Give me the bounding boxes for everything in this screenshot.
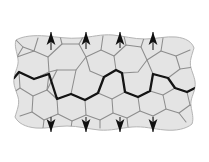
figure-root [0, 0, 209, 162]
specimen-fill [14, 35, 195, 130]
intergranular-fracture-figure [0, 0, 209, 162]
specimen-body [14, 35, 195, 130]
